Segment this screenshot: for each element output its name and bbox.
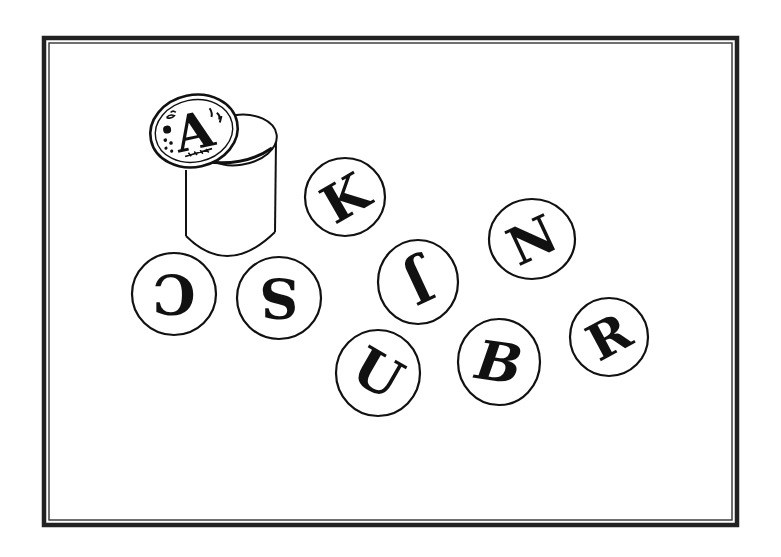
token-s: S bbox=[237, 257, 321, 339]
token-letter: C bbox=[153, 262, 196, 326]
token-u: U bbox=[336, 330, 420, 416]
token-r: R bbox=[570, 298, 648, 376]
token-n: N bbox=[489, 199, 575, 279]
token-b: B bbox=[458, 319, 540, 405]
illustration-canvas: A C S K J N U B R bbox=[0, 0, 781, 557]
token-k: K bbox=[305, 158, 385, 236]
token-letter: S bbox=[260, 266, 299, 330]
token-j: J bbox=[378, 240, 458, 324]
cylinder-right-edge bbox=[275, 140, 276, 232]
token-c: C bbox=[132, 253, 216, 335]
